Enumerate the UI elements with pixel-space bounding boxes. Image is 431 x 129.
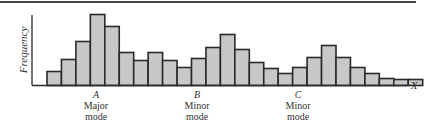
histogram-bar bbox=[76, 42, 90, 86]
histogram-bar bbox=[394, 80, 408, 86]
histogram-bar bbox=[134, 61, 148, 86]
histogram-bar bbox=[307, 58, 321, 86]
histogram-bar bbox=[90, 15, 104, 86]
histogram-bar bbox=[61, 60, 75, 86]
histogram-bar bbox=[249, 63, 263, 86]
mode-b-line1: Minor bbox=[185, 100, 211, 111]
mode-a-line1: Major bbox=[84, 100, 109, 111]
histogram-bar bbox=[235, 50, 249, 86]
histogram-bar bbox=[322, 46, 336, 86]
y-axis-label: Frequency bbox=[17, 27, 29, 75]
mode-a-line2: mode bbox=[85, 111, 108, 122]
histogram-bar bbox=[350, 68, 364, 86]
histogram-bar bbox=[47, 72, 61, 86]
histogram-bar bbox=[206, 48, 220, 86]
trimodal-histogram: Frequency X A Major mode B Minor mode C … bbox=[0, 0, 431, 129]
histogram-bar bbox=[177, 68, 191, 86]
histogram-bar bbox=[192, 59, 206, 86]
histogram-bar bbox=[163, 61, 177, 86]
histogram-bar bbox=[119, 53, 133, 86]
histogram-bar bbox=[220, 35, 234, 86]
histogram-bar bbox=[105, 27, 119, 86]
histogram-bar bbox=[148, 53, 162, 86]
histogram-bar bbox=[365, 74, 379, 86]
mode-b-letter: B bbox=[194, 89, 200, 100]
mode-a-letter: A bbox=[92, 89, 100, 100]
histogram-bar bbox=[264, 69, 278, 86]
histogram-bar bbox=[336, 58, 350, 86]
histogram-bar bbox=[278, 74, 292, 86]
mode-b-line2: mode bbox=[186, 111, 209, 122]
histogram-bar bbox=[293, 68, 307, 86]
mode-c-line1: Minor bbox=[286, 100, 312, 111]
mode-c-letter: C bbox=[295, 89, 302, 100]
mode-c-line2: mode bbox=[287, 111, 310, 122]
histogram-bar bbox=[379, 79, 393, 86]
histogram-bars bbox=[47, 15, 423, 86]
x-axis-label: X bbox=[410, 79, 419, 91]
